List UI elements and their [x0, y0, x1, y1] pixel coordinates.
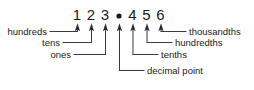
label-tens: tens — [42, 37, 60, 48]
digit-thousandths: 6 — [156, 6, 164, 23]
place-value-diagram: 1 2 3 4 5 6 — [0, 0, 254, 90]
arrow-thousandths — [158, 23, 163, 31]
arrow-hundreds — [75, 23, 80, 31]
arrow-decimal-point — [117, 23, 122, 70]
diagram-canvas: 1 2 3 4 5 6 — [0, 0, 254, 90]
label-hundreds: hundreds — [7, 26, 47, 37]
label-hundredths: hundredths — [175, 37, 223, 48]
labels-right: thousandths hundredths tenths decimal po… — [147, 26, 241, 76]
arrow-tens — [89, 23, 94, 42]
arrow-tenths — [130, 23, 135, 54]
arrow-ones — [103, 23, 108, 54]
digit-hundredths: 5 — [142, 6, 150, 23]
digit-ones: 3 — [101, 6, 109, 23]
label-tenths: tenths — [161, 49, 187, 60]
digit-tens: 2 — [87, 6, 95, 23]
digit-tenths: 4 — [128, 6, 136, 23]
arrow-hundredths — [144, 23, 149, 42]
label-thousandths: thousandths — [189, 26, 241, 37]
decimal-point-mark — [116, 13, 121, 18]
digit-hundreds: 1 — [73, 6, 81, 23]
digits-row: 1 2 3 4 5 6 — [73, 6, 165, 23]
arrows-group — [75, 23, 164, 70]
label-ones: ones — [50, 49, 71, 60]
label-decimal-point: decimal point — [147, 65, 203, 76]
